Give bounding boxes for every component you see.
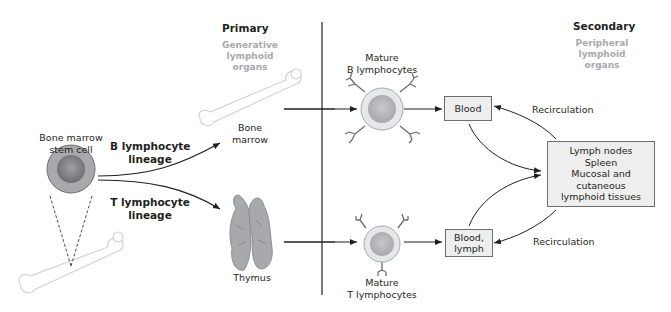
- mature-b-label-line2: B lymphocytes: [347, 64, 417, 76]
- thymus-label: Thymus: [230, 272, 274, 284]
- t-lineage-label: T lymphocyte lineage: [110, 196, 190, 221]
- secondary-subtitle: Peripheral lymphoid organs: [562, 38, 642, 71]
- mature-t-lymphocyte-icon: [356, 214, 408, 276]
- primary-subtitle-line1: Generative: [210, 40, 290, 51]
- bone-marrow-label-line1: Bone: [230, 122, 270, 134]
- bone-marrow-label: Bone marrow: [230, 122, 270, 145]
- recirculation-bottom-label: Recirculation: [533, 236, 594, 248]
- thymus-icon: [230, 195, 272, 270]
- primary-title: Primary: [222, 22, 269, 34]
- b-lineage-label-line2: lineage: [110, 153, 190, 166]
- primary-subtitle-line2: lymphoid organs: [210, 51, 290, 73]
- secondary-subtitle-line1: Peripheral: [562, 38, 642, 49]
- secondary-organs-line4: lymphoid tissues: [561, 191, 641, 203]
- bone-marrow-bone-icon: [199, 69, 301, 125]
- mature-b-label-line1: Mature: [347, 52, 417, 64]
- t-lineage-label-line1: T lymphocyte: [110, 196, 190, 209]
- mature-b-lymphocyte-icon: [345, 73, 420, 143]
- blood-lymph-to-secondary-arrow: [469, 175, 541, 226]
- blood-box-label: Blood: [455, 103, 482, 115]
- mature-t-label-line1: Mature: [347, 277, 417, 289]
- secondary-organs-box: Lymph nodes Spleen Mucosal and cutaneous…: [547, 141, 655, 207]
- bone-marrow-label-line2: marrow: [230, 134, 270, 146]
- recirculation-top-label: Recirculation: [532, 104, 593, 116]
- b-lineage-label-line1: B lymphocyte: [110, 140, 190, 153]
- section-divider: [284, 22, 335, 295]
- mature-b-label: Mature B lymphocytes: [347, 52, 417, 75]
- secondary-organs-line3: Mucosal and cutaneous: [548, 168, 654, 191]
- mature-t-label: Mature T lymphocytes: [347, 277, 417, 300]
- stem-cell-label-line2: stem cell: [36, 144, 106, 156]
- blood-lymph-box: Blood, lymph: [445, 229, 493, 257]
- blood-box: Blood: [444, 96, 492, 121]
- femur-bone-icon: [19, 232, 123, 293]
- secondary-subtitle-line2: lymphoid organs: [562, 49, 642, 71]
- stem-cell-label-line1: Bone marrow: [36, 132, 106, 144]
- blood-lymph-box-line1: Blood,: [454, 232, 484, 244]
- b-lineage-label: B lymphocyte lineage: [110, 140, 190, 165]
- primary-subtitle: Generative lymphoid organs: [210, 40, 290, 73]
- t-lineage-label-line2: lineage: [110, 209, 190, 222]
- blood-lymph-box-line2: lymph: [454, 243, 484, 255]
- secondary-organs-line2: Spleen: [585, 157, 617, 169]
- stem-cell-label: Bone marrow stem cell: [36, 132, 106, 155]
- blood-to-secondary-arrow: [469, 124, 541, 171]
- mature-t-label-line2: T lymphocytes: [347, 289, 417, 301]
- secondary-organs-line1: Lymph nodes: [569, 145, 632, 157]
- secondary-title: Secondary: [573, 20, 635, 32]
